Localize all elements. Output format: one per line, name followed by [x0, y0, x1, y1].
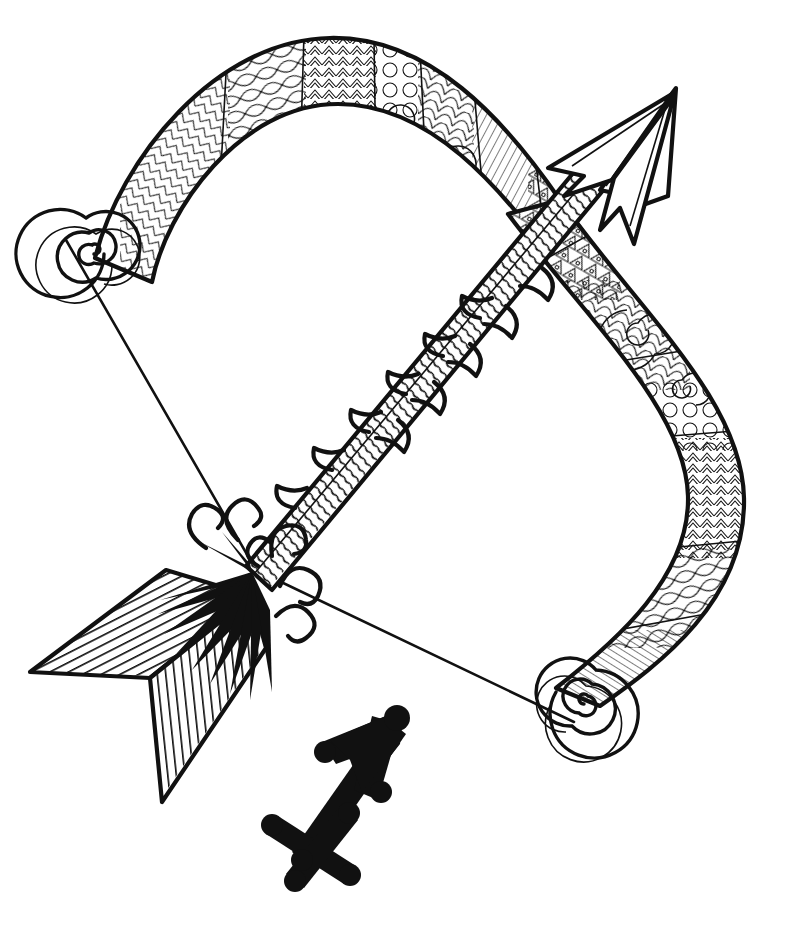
illustration-canvas — [0, 0, 791, 928]
artboard — [0, 0, 791, 928]
